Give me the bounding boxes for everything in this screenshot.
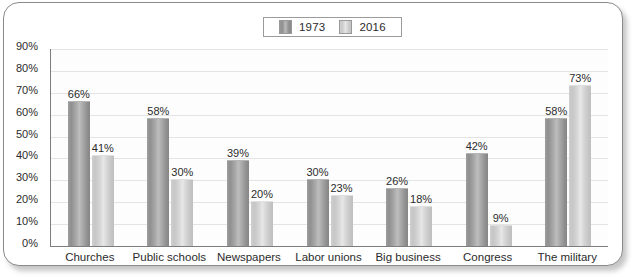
bar-1973-congress <box>466 153 488 246</box>
bar-value-label: 41% <box>86 142 120 154</box>
bar-value-label: 23% <box>325 182 359 194</box>
legend-label-2016: 2016 <box>359 21 385 33</box>
bar-value-label: 30% <box>165 166 199 178</box>
bar-2016-labor-unions <box>331 195 353 246</box>
bar-value-label: 26% <box>380 175 414 187</box>
bar-2016-the-military <box>569 85 591 246</box>
plot-area: 66%41%58%30%39%20%30%23%26%18%42%9%58%73… <box>50 49 608 247</box>
bar-value-label: 9% <box>484 212 518 224</box>
bar-2016-public-schools <box>171 179 193 246</box>
legend-swatch-2016-icon <box>339 20 352 34</box>
bar-value-label: 58% <box>539 105 573 117</box>
bar-value-label: 66% <box>62 88 96 100</box>
chart-legend: 1973 2016 <box>263 17 402 37</box>
chart-frame: 1973 2016 66%41%58%30%39%20%30%23%26%18%… <box>3 2 623 266</box>
bar-group: 58%30% <box>147 49 193 246</box>
x-axis-category-label: The military <box>517 251 617 263</box>
bar-value-label: 42% <box>460 140 494 152</box>
bar-group: 42%9% <box>466 49 512 246</box>
bar-group: 58%73% <box>545 49 591 246</box>
legend-label-1973: 1973 <box>299 21 325 33</box>
bar-value-label: 73% <box>563 72 597 84</box>
bar-2016-newspapers <box>251 201 273 246</box>
bar-value-label: 20% <box>245 188 279 200</box>
bar-2016-congress <box>490 225 512 246</box>
bar-group: 26%18% <box>386 49 432 246</box>
bar-1973-the-military <box>545 118 567 246</box>
legend-swatch-1973-icon <box>279 20 292 34</box>
legend-entry-2016: 2016 <box>339 20 385 34</box>
bar-1973-public-schools <box>147 118 169 246</box>
legend-entry-1973: 1973 <box>279 20 325 34</box>
bar-value-label: 39% <box>221 147 255 159</box>
bar-group: 30%23% <box>307 49 353 246</box>
bar-value-label: 30% <box>301 166 335 178</box>
bar-value-label: 18% <box>404 193 438 205</box>
bar-group: 66%41% <box>68 49 114 246</box>
bar-1973-newspapers <box>227 160 249 246</box>
bar-group: 39%20% <box>227 49 273 246</box>
bar-value-label: 58% <box>141 105 175 117</box>
bar-1973-churches <box>68 101 90 246</box>
bar-2016-churches <box>92 155 114 246</box>
bar-2016-big-business <box>410 206 432 246</box>
